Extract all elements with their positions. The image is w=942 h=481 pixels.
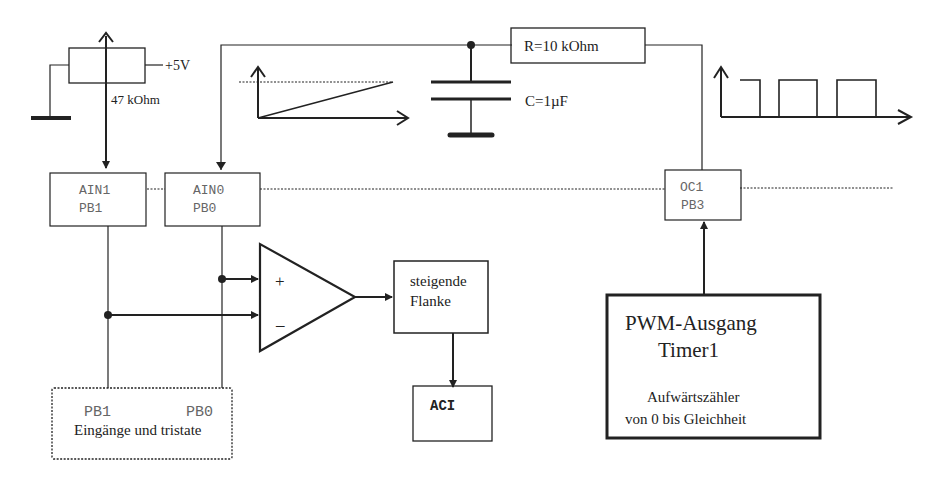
comparator-plus-label: + bbox=[275, 272, 285, 291]
pwm-waveform-icon bbox=[714, 67, 911, 124]
ain0-arrow-icon bbox=[216, 162, 226, 170]
pot-ground-wire bbox=[50, 65, 69, 118]
comparator-schematic: +5V 47 kOhm R=10 kOhm C=1µF bbox=[0, 0, 942, 481]
aci-flag-block: ACI bbox=[413, 386, 492, 441]
pin-ain1-name: AIN1 bbox=[79, 183, 110, 198]
pin-oc1: OC1 PB3 bbox=[665, 170, 741, 220]
pin-oc1-name: OC1 bbox=[680, 180, 704, 195]
ain0-feedback-wire bbox=[221, 45, 512, 170]
pin-ain0: AIN0 PB0 bbox=[165, 173, 260, 226]
io-pin-right: PB0 bbox=[186, 404, 213, 421]
pot-value-label: 47 kOhm bbox=[111, 92, 160, 107]
edge-detect-block: steigende Flanke bbox=[394, 261, 488, 333]
pin-ain0-port: PB0 bbox=[193, 201, 216, 216]
supply-label: +5V bbox=[165, 58, 190, 73]
oc1-wire bbox=[645, 45, 702, 170]
capacitor-label: C=1µF bbox=[525, 93, 568, 109]
comparator-triangle bbox=[260, 244, 355, 351]
resistor-label: R=10 kOhm bbox=[524, 38, 599, 54]
potentiometer: +5V 47 kOhm bbox=[31, 33, 190, 168]
io-caption: Eingänge und tristate bbox=[74, 422, 202, 438]
pwm-block-desc2: von 0 bis Gleichheit bbox=[625, 411, 747, 427]
pin-ain1-port: PB1 bbox=[79, 201, 103, 216]
edge-block-line1: steigende bbox=[410, 273, 467, 289]
pin-ain0-name: AIN0 bbox=[193, 183, 224, 198]
comparator: + – bbox=[260, 244, 355, 351]
io-pin-left: PB1 bbox=[84, 404, 111, 421]
pin-oc1-port: PB3 bbox=[681, 198, 704, 213]
pwm-block-title: PWM-Ausgang bbox=[625, 311, 757, 335]
pwm-timer-block: PWM-Ausgang Timer1 Aufwärtszähler von 0 … bbox=[607, 295, 820, 438]
io-block: PB1 PB0 Eingänge und tristate bbox=[52, 388, 232, 459]
edge-block-line2: Flanke bbox=[410, 293, 451, 309]
capacitor: C=1µF bbox=[431, 45, 568, 135]
pin-ain1: AIN1 PB1 bbox=[50, 173, 146, 226]
ramp-waveform-icon bbox=[239, 67, 408, 125]
aci-label: ACI bbox=[430, 398, 455, 414]
pwm-block-desc1: Aufwärtszähler bbox=[647, 389, 739, 405]
pwm-block-timer: Timer1 bbox=[658, 338, 719, 362]
comparator-minus-label: – bbox=[275, 315, 285, 334]
